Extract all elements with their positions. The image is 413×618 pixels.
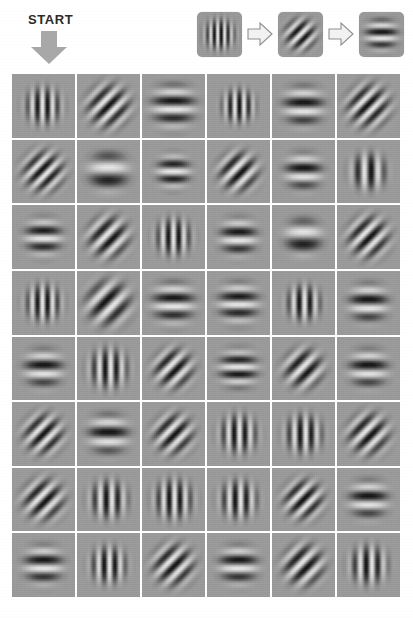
gabor-cell (142, 140, 205, 204)
gabor-cell (77, 205, 140, 269)
legend-thumb-0 (197, 12, 242, 57)
gabor-cell (12, 402, 75, 466)
gabor-cell (272, 337, 335, 401)
gabor-patch-vertical-icon (77, 468, 140, 532)
gabor-cell (142, 468, 205, 532)
gabor-cell (337, 271, 400, 335)
gabor-cell (207, 74, 270, 138)
arrow-right-outline-icon (247, 21, 273, 47)
gabor-cell (337, 74, 400, 138)
gabor-patch-diagonal-45-icon (77, 74, 140, 138)
legend-thumb-2 (359, 12, 404, 57)
gabor-patch-vertical-icon (12, 74, 75, 138)
gabor-cell (337, 533, 400, 597)
gabor-patch-vertical-icon (142, 468, 205, 532)
start-label: START (28, 12, 73, 27)
gabor-cell (272, 140, 335, 204)
gabor-patch-horizontal-icon (12, 533, 75, 597)
gabor-cell (337, 140, 400, 204)
gabor-patch-vertical-icon (142, 205, 205, 269)
gabor-cell (12, 533, 75, 597)
gabor-patch-horizontal-icon (207, 337, 270, 401)
gabor-cell (142, 74, 205, 138)
gabor-patch-horizontal-icon (142, 74, 205, 138)
gabor-cell (12, 271, 75, 335)
arrow-down-icon (29, 31, 69, 65)
gabor-patch-diagonal-45-icon (12, 140, 75, 204)
gabor-patch-vertical-icon (272, 402, 335, 466)
gabor-cell (77, 468, 140, 532)
gabor-patch-horizontal-icon (272, 74, 335, 138)
gabor-patch-horizontal-icon (142, 271, 205, 335)
gabor-patch-horizontal-icon (77, 402, 140, 466)
gabor-cell (207, 337, 270, 401)
gabor-patch-diagonal-45-icon (337, 402, 400, 466)
gabor-cell (142, 271, 205, 335)
stimulus-figure: START (0, 0, 413, 618)
gabor-cell (272, 271, 335, 335)
gabor-cell (142, 402, 205, 466)
gabor-patch-horizontal-icon (337, 271, 400, 335)
gabor-cell (207, 140, 270, 204)
gabor-patch-diagonal-45-icon (337, 74, 400, 138)
gabor-patch-diagonal-45-icon (207, 140, 270, 204)
gabor-cell (77, 74, 140, 138)
gabor-cell (77, 140, 140, 204)
gabor-patch-horizontal-icon (207, 271, 270, 335)
gabor-patch-vertical-icon (197, 12, 242, 57)
gabor-patch-vertical-icon (77, 533, 140, 597)
gabor-cell (142, 337, 205, 401)
gabor-cell (337, 337, 400, 401)
gabor-cell (77, 533, 140, 597)
legend-sequence (197, 11, 404, 57)
gabor-patch-diagonal-45-icon (142, 533, 205, 597)
gabor-patch-vertical-icon (337, 140, 400, 204)
gabor-cell (272, 205, 335, 269)
gabor-patch-vertical-icon (77, 337, 140, 401)
gabor-patch-diagonal-45-icon (142, 402, 205, 466)
gabor-cell (207, 468, 270, 532)
gabor-patch-diagonal-45-icon (272, 468, 335, 532)
gabor-patch-diagonal-45-icon (77, 271, 140, 335)
gabor-patch-vertical-icon (12, 271, 75, 335)
gabor-cell (207, 205, 270, 269)
gabor-patch-horizontal-icon (207, 205, 270, 269)
gabor-patch-diagonal-45-icon (12, 468, 75, 532)
gabor-cell (207, 533, 270, 597)
gabor-patch-vertical-icon (272, 271, 335, 335)
legend-thumb-1 (278, 12, 323, 57)
figure-header: START (0, 0, 413, 72)
gabor-cell (12, 205, 75, 269)
gabor-patch-diagonal-45-icon (272, 337, 335, 401)
gabor-cell (337, 402, 400, 466)
gabor-patch-grid (12, 74, 400, 597)
gabor-patch-horizontal-icon (272, 140, 335, 204)
gabor-cell (337, 205, 400, 269)
gabor-cell (12, 74, 75, 138)
gabor-cell (272, 533, 335, 597)
gabor-patch-diagonal-45-icon (77, 205, 140, 269)
gabor-patch-horizontal-icon (77, 140, 140, 204)
gabor-cell (272, 402, 335, 466)
gabor-cell (77, 271, 140, 335)
gabor-cell (77, 337, 140, 401)
gabor-cell (12, 468, 75, 532)
gabor-patch-horizontal-icon (142, 140, 205, 204)
gabor-cell (12, 337, 75, 401)
gabor-patch-diagonal-45-icon (337, 205, 400, 269)
gabor-patch-diagonal-45-icon (12, 402, 75, 466)
gabor-cell (207, 271, 270, 335)
gabor-cell (207, 402, 270, 466)
gabor-patch-vertical-icon (207, 468, 270, 532)
gabor-patch-diagonal-45-icon (142, 337, 205, 401)
gabor-patch-vertical-icon (207, 402, 270, 466)
gabor-patch-vertical-icon (337, 533, 400, 597)
gabor-cell (272, 74, 335, 138)
gabor-patch-diagonal-45-icon (272, 533, 335, 597)
gabor-cell (272, 468, 335, 532)
gabor-cell (77, 402, 140, 466)
gabor-cell (142, 533, 205, 597)
gabor-cell (337, 468, 400, 532)
gabor-patch-horizontal-icon (12, 337, 75, 401)
gabor-patch-horizontal-icon (337, 337, 400, 401)
